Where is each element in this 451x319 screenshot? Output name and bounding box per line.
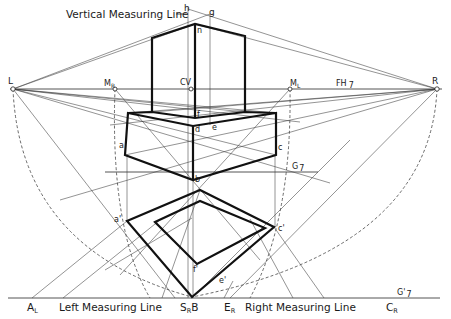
center-of-vision <box>189 87 193 91</box>
label-CR: CR <box>386 301 398 315</box>
label-AL: AL <box>27 301 38 315</box>
label-SRB: SRB <box>180 301 198 315</box>
label-L: L <box>8 76 13 86</box>
label-ER: ER <box>224 301 236 315</box>
label-FH: FH7 <box>336 79 354 90</box>
label-f: f <box>197 110 200 119</box>
label-g: g <box>209 7 215 17</box>
diagram-svg: Vertical Measuring Line h g n L R CV MR … <box>0 0 451 319</box>
vanishing-point-left <box>11 87 15 91</box>
label-ML: ML <box>290 79 301 89</box>
label-c: c <box>278 143 282 152</box>
label-a-prime: a' <box>114 215 121 224</box>
label-e: e <box>212 123 217 132</box>
label-G-prime: G'7 <box>397 288 412 299</box>
vanishing-point-right <box>435 87 439 91</box>
label-right-measuring-line: Right Measuring Line <box>245 301 356 313</box>
label-G: G7 <box>292 162 304 173</box>
label-R: R <box>432 76 438 86</box>
label-d: d <box>195 125 200 134</box>
label-f-prime: f' <box>193 265 198 274</box>
label-MR: MR <box>104 79 115 89</box>
label-left-measuring-line: Left Measuring Line <box>59 301 162 313</box>
label-c-prime: c' <box>278 224 285 233</box>
base-slab <box>125 112 276 180</box>
label-h: h <box>184 3 190 13</box>
label-e-prime: e' <box>219 276 226 285</box>
perspective-diagram: Vertical Measuring Line h g n L R CV MR … <box>0 0 451 319</box>
label-a: a <box>119 141 124 150</box>
mr-arc <box>114 89 150 298</box>
label-b: b <box>195 175 200 184</box>
label-vertical-measuring-line: Vertical Measuring Line <box>66 8 189 20</box>
label-n: n <box>197 26 202 35</box>
label-CV: CV <box>180 78 192 87</box>
